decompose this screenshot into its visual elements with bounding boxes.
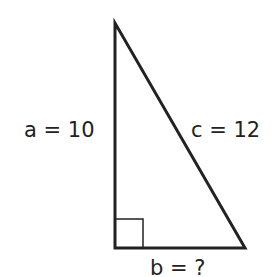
right-angle-marker (115, 219, 143, 248)
side-c-label: c = 12 (191, 120, 260, 141)
side-a-label: a = 10 (24, 120, 95, 141)
side-b-label: b = ? (150, 258, 205, 277)
